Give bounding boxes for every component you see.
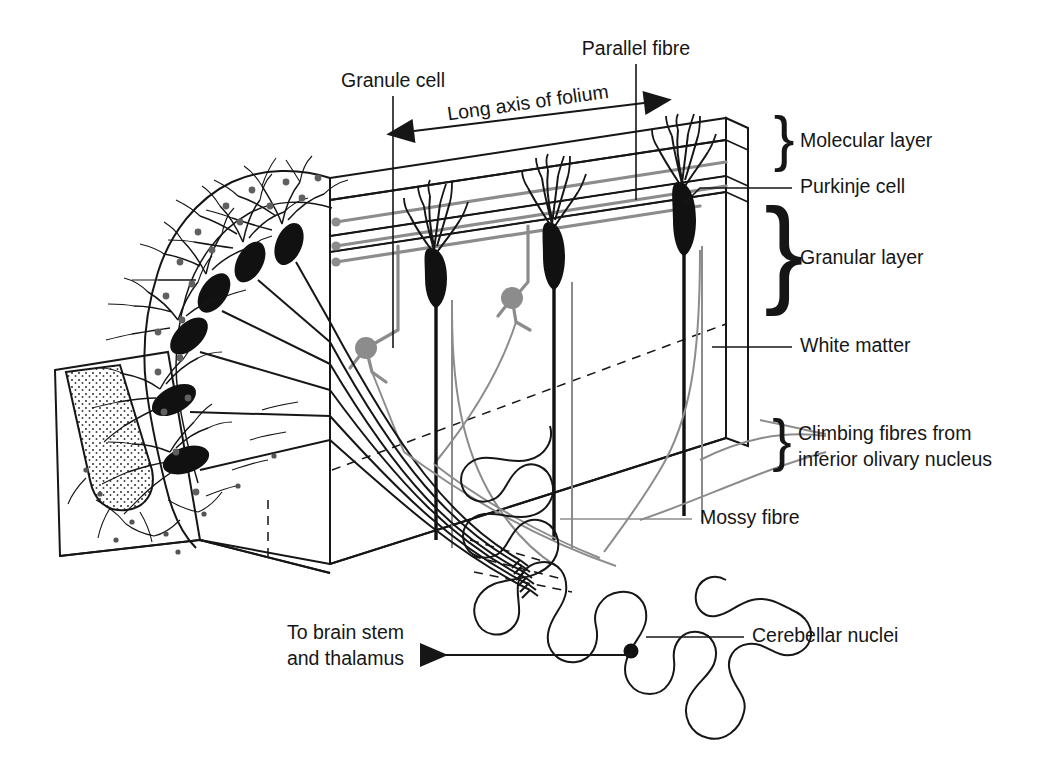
purkinje-cell-section-2 <box>168 174 330 342</box>
climbing-fibres-brace: } <box>772 407 791 472</box>
label-climbing-fibres: } Climbing fibres from inferior olivary … <box>772 407 992 472</box>
parallel-fibre-label: Parallel fibre <box>582 37 690 59</box>
label-white-matter: White matter <box>712 334 911 356</box>
granule-cell-label: Granule cell <box>341 69 445 91</box>
section-base-right <box>200 540 330 573</box>
granular-layer-label: Granular layer <box>800 246 924 268</box>
granular-layer-brace: } <box>764 184 803 316</box>
label-long-axis: Long axis of folium <box>414 80 644 131</box>
block-right-face <box>726 118 748 446</box>
climbing-fibres-label-1: Climbing fibres from <box>798 422 971 444</box>
white-matter-label: White matter <box>800 334 911 356</box>
molecular-layer-brace: } <box>774 103 795 172</box>
mossy-fibre-label: Mossy fibre <box>700 506 800 528</box>
cerebellar-nuclei-label: Cerebellar nuclei <box>752 624 898 646</box>
cerebellum-diagram: Granule cell Parallel fibre Long axis of… <box>0 0 1038 773</box>
diagram-canvas: Granule cell Parallel fibre Long axis of… <box>0 0 1038 773</box>
purkinje-cell-block-2 <box>522 154 586 540</box>
label-granular-layer: } Granular layer <box>764 184 924 316</box>
molecular-layer-label: Molecular layer <box>800 129 933 151</box>
efferent-neuron-dot <box>624 644 639 659</box>
climbing-fibres-label-2: inferior olivary nucleus <box>798 448 992 470</box>
mossy-fibre-2 <box>434 464 600 558</box>
granule-cell-2 <box>434 226 530 464</box>
block-right-edges <box>726 140 748 202</box>
to-brain-stem-label-1: To brain stem <box>287 621 404 643</box>
granular-white-boundary <box>332 324 726 470</box>
label-molecular-layer: } Molecular layer <box>774 103 933 172</box>
purkinje-cell-block-3 <box>652 114 716 516</box>
to-brain-stem-label-2: and thalamus <box>287 647 404 669</box>
label-mossy-fibre: Mossy fibre <box>560 506 800 528</box>
folium-section <box>55 156 348 573</box>
purkinje-cell-label: Purkinje cell <box>800 175 905 197</box>
